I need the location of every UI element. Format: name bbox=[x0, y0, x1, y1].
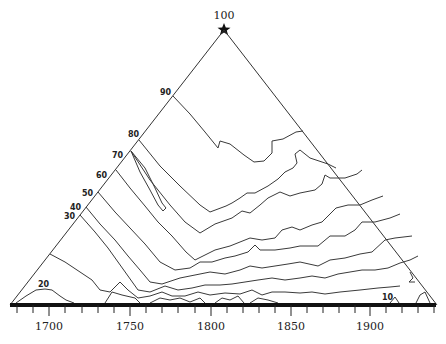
contour-interior-a bbox=[150, 298, 205, 303]
contour-label-50: 50 bbox=[82, 189, 94, 198]
contour-label-90: 90 bbox=[160, 88, 172, 97]
triangle-right-edge bbox=[224, 30, 437, 305]
star-icon bbox=[218, 23, 231, 35]
triangle-left-edge bbox=[10, 30, 224, 305]
contour-40 bbox=[86, 207, 412, 284]
contour-80 bbox=[139, 140, 336, 212]
contour-label-80: 80 bbox=[128, 130, 140, 139]
triangular-contour-chart: 100 90 80 70 60 50 40 30 20 10 bbox=[0, 0, 446, 344]
contour-label-30: 30 bbox=[64, 212, 76, 221]
contour-label-70: 70 bbox=[112, 151, 124, 160]
x-tick-label-1750: 1750 bbox=[116, 320, 144, 333]
contour-90 bbox=[173, 96, 303, 162]
contour-30 bbox=[80, 215, 418, 292]
contour-20 bbox=[16, 289, 74, 303]
x-tick-label-1900: 1900 bbox=[356, 320, 384, 333]
contour-label-20: 20 bbox=[38, 280, 50, 289]
contour-label-60: 60 bbox=[96, 171, 108, 180]
x-tick-label-1800: 1800 bbox=[197, 320, 225, 333]
apex-label: 100 bbox=[214, 9, 235, 22]
contour-interior-b bbox=[215, 296, 244, 303]
x-tick-label-1850: 1850 bbox=[277, 320, 305, 333]
contour-25 bbox=[50, 254, 400, 298]
contour-label-10: 10 bbox=[382, 293, 394, 302]
contour-20-right-segment bbox=[105, 292, 140, 303]
contour-label-40: 40 bbox=[70, 203, 82, 212]
contour-70-loop bbox=[131, 151, 166, 211]
contour-interior-c bbox=[250, 298, 278, 303]
x-tick-label-1700: 1700 bbox=[35, 320, 63, 333]
